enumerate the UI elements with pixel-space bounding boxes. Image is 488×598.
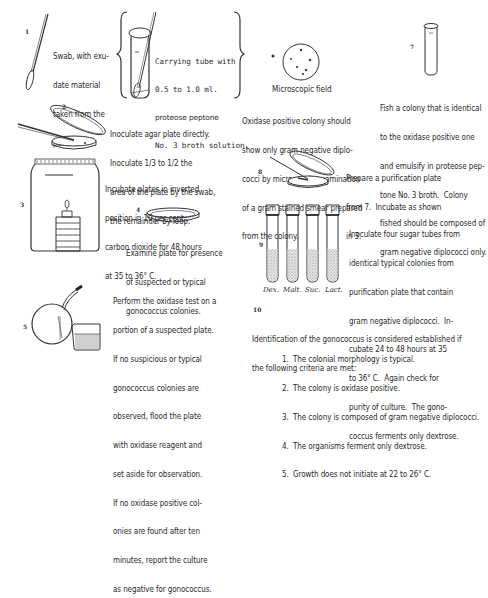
step-number: 7 [410,43,414,50]
microscopic-field-illustration [281,42,321,82]
tube-dextrose [266,205,279,282]
step-number: 8 [258,168,262,175]
oxidase-test-illustration [30,286,110,356]
criteria-item: 1. The colonial morphology is typical. [282,355,479,365]
step-number: 3 [20,201,24,208]
tube-label-lact: Lact. [325,286,343,294]
tube-label-suc: Suc. [305,286,320,294]
criteria-item: 4. The organisms ferment only dextrose. [282,442,479,452]
agar-plate-illustration [18,105,108,155]
step-number: 9 [259,241,263,248]
petri-dish-illustration [145,207,201,227]
microscopic-field-caption: Microscopic field [272,85,332,95]
step-6-dot-icon [271,54,275,58]
step-number: 4 [136,206,140,213]
swab-illustration [24,12,54,92]
step-number: 5 [23,323,27,330]
step-number: 10 [253,306,261,313]
tube-label-dex: Dex. [263,286,279,294]
criteria-item: 3. The colony is composed of gram negati… [282,413,479,423]
test-tube-illustration [421,23,441,77]
criteria-list: 1. The colonial morphology is typical. 2… [282,336,479,499]
purification-plate-illustration [268,151,338,191]
tube-label-malt: Malt. [283,286,302,294]
sugar-tubes-illustration [264,205,344,285]
candle-jar-illustration [29,159,104,254]
criteria-item: 2. The colony is oxidase positive. [282,384,479,394]
criteria-item: 5. Growth does not initiate at 22 to 26°… [282,470,479,480]
right-brace-icon [232,10,244,100]
tube-lactose [326,205,339,282]
tube-sucrose [306,205,319,282]
step-5-text: Perform the oxidase test on a portion of… [113,278,216,598]
tube-maltose [286,205,299,282]
